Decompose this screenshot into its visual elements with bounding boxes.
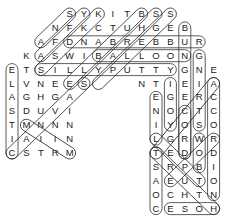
grid-cell[interactable]: F [49,36,61,48]
grid-cell[interactable]: K [92,8,104,20]
grid-cell[interactable]: E [179,91,191,103]
grid-cell[interactable]: B [107,36,119,48]
grid-cell[interactable]: R [193,91,205,103]
grid-cell[interactable]: F [64,22,76,34]
grid-cell[interactable]: S [6,105,18,117]
grid-cell[interactable]: E [6,64,18,76]
grid-cell[interactable]: A [20,133,32,145]
grid-cell[interactable]: P [107,64,119,76]
grid-cell[interactable]: I [49,133,61,145]
grid-cell[interactable]: L [6,78,18,90]
grid-cell[interactable]: T [150,64,162,76]
grid-cell[interactable]: U [121,64,133,76]
grid-cell[interactable]: N [208,189,220,201]
grid-cell[interactable]: E [136,36,148,48]
grid-cell[interactable]: O [164,105,176,117]
grid-cell[interactable]: S [64,8,76,20]
grid-cell[interactable]: L [78,64,90,76]
grid-cell[interactable]: G [164,133,176,145]
grid-cell[interactable]: H [179,189,191,201]
grid-cell[interactable]: D [208,147,220,159]
grid-cell[interactable]: T [193,175,205,187]
grid-cell[interactable]: T [6,119,18,131]
grid-cell[interactable]: B [150,36,162,48]
grid-cell[interactable]: G [179,64,191,76]
grid-cell[interactable]: H [208,203,220,215]
grid-cell[interactable]: G [164,91,176,103]
grid-cell[interactable]: A [6,91,18,103]
grid-cell[interactable]: D [179,147,191,159]
grid-cell[interactable]: E [49,78,61,90]
grid-cell[interactable]: O [208,175,220,187]
grid-cell[interactable]: R [179,133,191,145]
grid-cell[interactable]: N [150,105,162,117]
grid-cell[interactable]: T [121,8,133,20]
grid-cell[interactable]: L [150,133,162,145]
grid-cell[interactable]: C [92,22,104,34]
grid-cell[interactable]: V [49,105,61,117]
grid-cell[interactable]: E [164,203,176,215]
grid-cell[interactable]: I [64,105,76,117]
grid-cell[interactable]: G [20,91,32,103]
grid-cell[interactable]: N [179,50,191,62]
grid-cell[interactable]: A [107,50,119,62]
grid-cell[interactable]: E [64,78,76,90]
grid-cell[interactable]: C [150,203,162,215]
grid-cell[interactable]: C [208,105,220,117]
grid-cell[interactable]: A [208,78,220,90]
grid-cell[interactable]: N [49,22,61,34]
grid-cell[interactable]: C [6,147,18,159]
grid-cell[interactable]: O [179,119,191,131]
grid-cell[interactable]: H [35,91,47,103]
grid-cell[interactable]: R [193,36,205,48]
grid-cell[interactable]: O [193,203,205,215]
grid-cell[interactable]: S [150,8,162,20]
grid-cell[interactable]: O [164,50,176,62]
grid-cell[interactable]: T [20,64,32,76]
grid-cell[interactable]: R [121,36,133,48]
grid-cell[interactable]: S [49,50,61,62]
grid-cell[interactable]: L [64,64,76,76]
grid-cell[interactable]: Y [78,8,90,20]
grid-cell[interactable]: G [150,22,162,34]
grid-cell[interactable]: D [64,36,76,48]
grid-cell[interactable]: S [150,161,162,173]
grid-cell[interactable]: I [6,133,18,145]
grid-cell[interactable]: Y [92,64,104,76]
grid-cell[interactable]: N [193,64,205,76]
grid-cell[interactable]: S [164,8,176,20]
grid-cell[interactable]: I [49,64,61,76]
grid-cell[interactable]: I [35,133,47,145]
grid-cell[interactable]: D [20,105,32,117]
grid-cell[interactable]: B [136,8,148,20]
grid-cell[interactable]: O [150,50,162,62]
grid-cell[interactable]: G [49,91,61,103]
grid-cell[interactable]: N [35,119,47,131]
grid-cell[interactable]: S [35,64,47,76]
grid-cell[interactable]: O [208,119,220,131]
grid-cell[interactable]: C [208,91,220,103]
grid-cell[interactable]: E [179,78,191,90]
grid-cell[interactable]: T [136,64,148,76]
grid-cell[interactable]: T [150,147,162,159]
grid-cell[interactable]: R [208,133,220,145]
grid-cell[interactable]: E [150,91,162,103]
grid-cell[interactable]: T [107,22,119,34]
grid-cell[interactable]: V [20,78,32,90]
grid-cell[interactable]: R [49,147,61,159]
grid-cell[interactable]: U [179,36,191,48]
grid-cell[interactable]: B [193,161,205,173]
grid-cell[interactable]: U [121,22,133,34]
grid-cell[interactable]: T [35,147,47,159]
grid-cell[interactable]: Y [164,119,176,131]
grid-cell[interactable]: N [78,36,90,48]
grid-cell[interactable]: I [208,161,220,173]
grid-cell[interactable]: I [164,78,176,90]
grid-cell[interactable]: K [78,22,90,34]
grid-cell[interactable]: U [179,175,191,187]
grid-cell[interactable]: A [64,91,76,103]
grid-cell[interactable]: B [164,36,176,48]
grid-cell[interactable]: E [208,64,220,76]
grid-cell[interactable]: E [164,22,176,34]
grid-cell[interactable]: O [193,147,205,159]
